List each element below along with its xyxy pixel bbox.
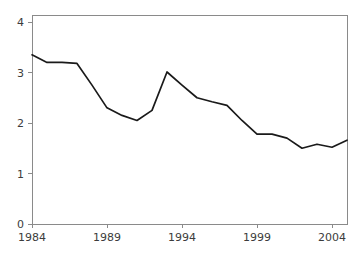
x-tick-label: 2004 [318,231,346,244]
x-tick-label: 1989 [93,231,121,244]
x-tick-label: 1984 [18,231,46,244]
y-tick-label: 2 [17,117,24,130]
y-tick-label: 3 [17,67,24,80]
x-tick-label: 1999 [243,231,271,244]
data-line-series-1 [32,55,347,148]
plot-frame [32,15,347,224]
y-tick-label: 4 [17,16,24,29]
y-axis-ticks: 01234 [17,16,32,231]
x-axis-ticks: 19841989199419992004 [18,224,346,244]
line-chart: 01234 19841989199419992004 [0,0,361,261]
y-tick-label: 0 [17,218,24,231]
x-tick-label: 1994 [168,231,196,244]
chart-container: 01234 19841989199419992004 [0,0,361,261]
y-tick-label: 1 [17,168,24,181]
